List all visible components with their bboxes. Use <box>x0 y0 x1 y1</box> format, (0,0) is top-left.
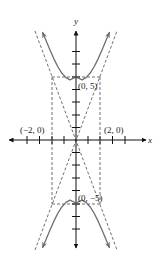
right-covertex-dot <box>99 139 102 142</box>
lower-vertex-label: (0, −5) <box>78 193 103 203</box>
left-covertex-label: (−2, 0) <box>20 125 45 135</box>
left-covertex-dot <box>51 139 54 142</box>
upper-vertex-label: (0, 5) <box>78 81 98 91</box>
y-axis-label: y <box>73 16 78 26</box>
hyperbola-diagram: y x (0, 5) (0, −5) (−2, 0) (2, 0) <box>0 0 155 266</box>
x-axis-label: x <box>147 135 152 145</box>
right-covertex-label: (2, 0) <box>104 125 124 135</box>
upper-vertex-dot <box>75 76 78 79</box>
